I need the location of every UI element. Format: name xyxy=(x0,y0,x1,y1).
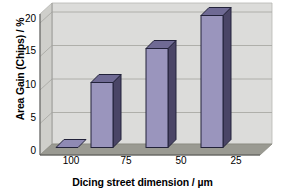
bar-50-side xyxy=(168,41,176,148)
bar-25-side xyxy=(223,8,231,148)
bar-50-front xyxy=(146,49,168,148)
x-tick-label-25: 25 xyxy=(219,155,253,166)
x-tick-label-100: 100 xyxy=(54,155,88,166)
bar-75-front xyxy=(91,83,113,148)
left-wall xyxy=(40,3,52,155)
bar-50[interactable] xyxy=(146,41,176,148)
bar-75-side xyxy=(113,75,121,148)
x-axis-title: Dicing street dimension / µm xyxy=(0,176,285,188)
x-tick-label-50: 50 xyxy=(164,155,198,166)
bar-75[interactable] xyxy=(91,75,121,148)
chart-figure: Area Gain (Chips) / % 0 5 10 15 20 xyxy=(0,0,285,195)
bar-25[interactable] xyxy=(201,8,231,148)
x-tick-label-75: 75 xyxy=(109,155,143,166)
bar-25-front xyxy=(201,16,223,148)
